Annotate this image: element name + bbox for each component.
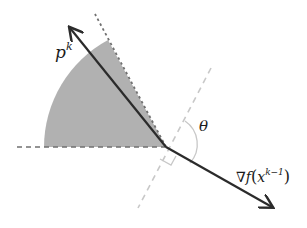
theta-label: θ [199,117,208,135]
theta-angle-arc [185,121,197,163]
p-k-label: pk [55,40,73,62]
right-angle-marker [160,156,176,165]
gradient-label: ∇f(xk−1) [236,167,290,186]
descent-cone-diagram: pk θ ∇f(xk−1) [0,0,307,228]
